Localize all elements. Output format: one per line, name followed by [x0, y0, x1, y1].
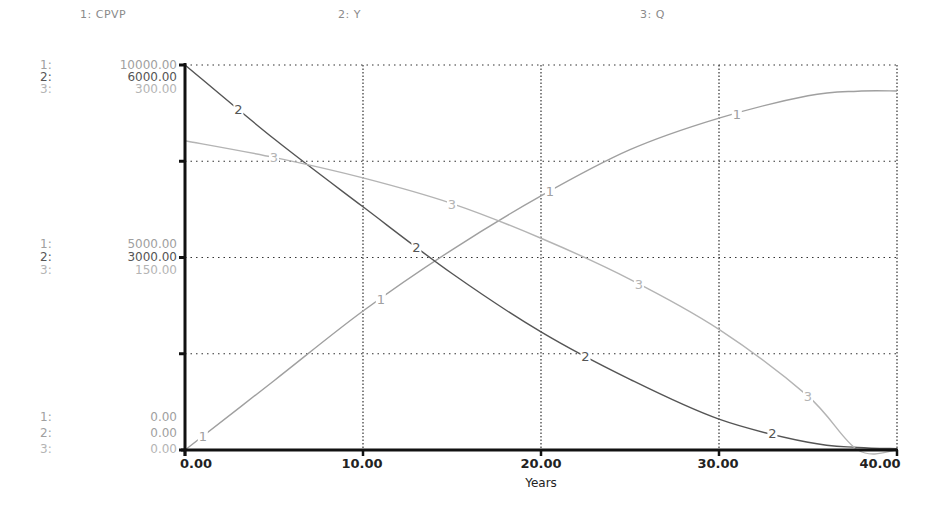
- series-1-marker-label: 1: [199, 429, 207, 444]
- series-3-marker-label: 3: [270, 150, 278, 165]
- series-3-marker-label: 3: [448, 197, 456, 212]
- x-axis-label: Years: [525, 476, 557, 490]
- series-2-marker-label: 2: [412, 240, 420, 255]
- series-lines: 111122223333: [185, 65, 897, 454]
- x-tick-40: 40.00: [859, 456, 900, 471]
- plot-area: 111122223333: [0, 0, 936, 523]
- x-tick-30: 30.00: [697, 456, 738, 471]
- series-2-marker-label: 2: [768, 426, 776, 441]
- series-2-marker-label: 2: [234, 102, 242, 117]
- series-3-marker-label: 3: [804, 389, 812, 404]
- series-1-marker-label: 1: [377, 292, 385, 307]
- grid-lines: [185, 65, 897, 450]
- x-tick-10: 10.00: [341, 456, 382, 471]
- x-tick-0: 0.00: [180, 456, 212, 471]
- series-2-marker-label: 2: [581, 349, 589, 364]
- series-1-marker-label: 1: [546, 184, 554, 199]
- x-tick-20: 20.00: [520, 456, 561, 471]
- series-1-line: [185, 91, 897, 450]
- series-3-marker-label: 3: [635, 277, 643, 292]
- axes: [179, 63, 898, 456]
- series-1-marker-label: 1: [733, 107, 741, 122]
